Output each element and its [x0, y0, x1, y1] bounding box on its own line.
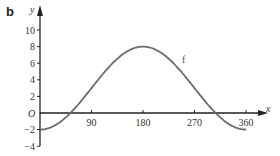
x-tick-label: 360	[239, 117, 254, 128]
x-tick-label: 90	[87, 117, 97, 128]
y-tick-label: −4	[24, 141, 35, 152]
line-chart: yxO108642−2−490180270360f	[0, 0, 280, 156]
y-tick-label: 6	[30, 58, 35, 69]
y-tick-label: 4	[30, 74, 35, 85]
curve-label-f: f	[182, 54, 186, 65]
y-tick-label: 8	[30, 41, 35, 52]
x-tick-label: 270	[187, 117, 202, 128]
x-axis-label: x	[265, 103, 271, 114]
y-tick-label: −2	[24, 124, 35, 135]
y-tick-label: 10	[25, 25, 35, 36]
y-tick-label: 2	[30, 91, 35, 102]
origin-label: O	[28, 108, 35, 119]
x-tick-label: 180	[136, 117, 151, 128]
y-axis-arrow-icon	[37, 5, 43, 16]
y-axis-label: y	[29, 4, 35, 15]
